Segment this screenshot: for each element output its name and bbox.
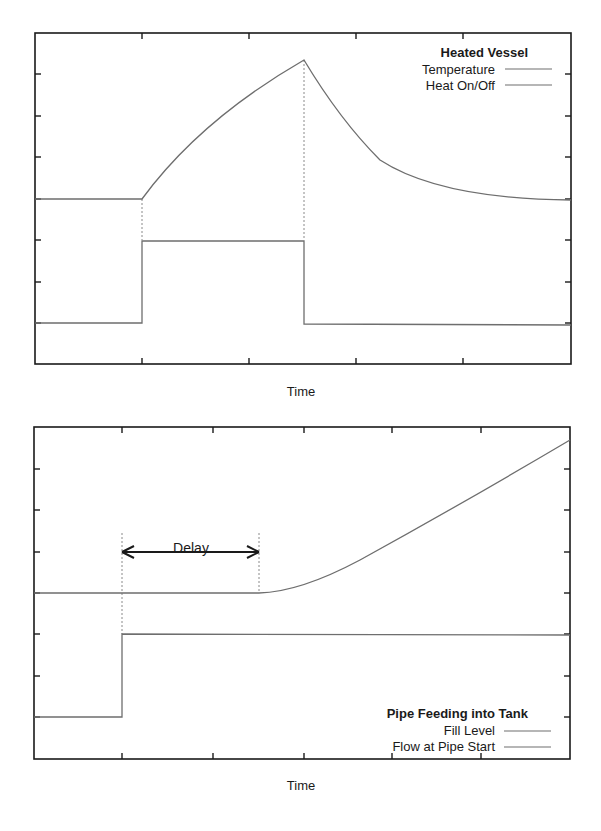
series-heat-on-off	[35, 241, 571, 325]
delay-annotation: Delay	[122, 540, 259, 558]
top-legend: Heated Vessel Temperature Heat On/Off	[422, 45, 552, 93]
series-fill-level	[34, 440, 570, 593]
legend-item-fill-level: Fill Level	[444, 723, 495, 738]
series-flow-at-pipe-start	[34, 634, 570, 717]
top-chart: Heated Vessel Temperature Heat On/Off Ti…	[35, 33, 571, 399]
legend-item-flow-at-pipe-start: Flow at Pipe Start	[392, 739, 495, 754]
bottom-legend: Pipe Feeding into Tank Fill Level Flow a…	[387, 706, 551, 754]
top-guides	[142, 60, 304, 240]
legend-item-temperature: Temperature	[422, 62, 495, 77]
top-x-ticks	[142, 33, 463, 364]
figure: Heated Vessel Temperature Heat On/Off Ti…	[0, 0, 601, 831]
top-x-axis-label: Time	[287, 384, 315, 399]
bottom-chart: Delay Pipe Feeding into Tank Fill Level …	[34, 427, 570, 793]
bottom-x-axis-label: Time	[287, 778, 315, 793]
delay-label: Delay	[173, 540, 209, 556]
legend-item-heat-on-off: Heat On/Off	[426, 78, 496, 93]
bottom-legend-title: Pipe Feeding into Tank	[387, 706, 529, 721]
top-legend-title: Heated Vessel	[441, 45, 528, 60]
